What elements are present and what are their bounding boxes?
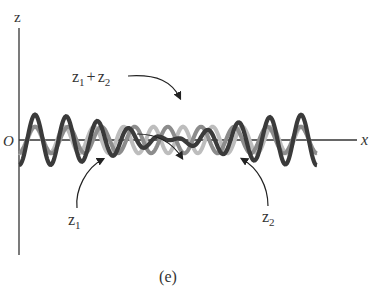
z1-label: z1 xyxy=(68,211,81,231)
figure-caption: (e) xyxy=(159,268,177,286)
z-axis-label: z xyxy=(14,9,21,25)
svg-text:z1+z2: z1+z2 xyxy=(72,68,110,88)
sum-label-arrow xyxy=(128,76,180,98)
z2-label: z2 xyxy=(262,208,275,228)
x-axis-label: x xyxy=(360,131,368,148)
svg-text:z2: z2 xyxy=(262,208,275,228)
z1-arrow xyxy=(77,159,103,208)
sum-label: z1+z2 xyxy=(72,68,110,88)
svg-text:z1: z1 xyxy=(68,211,81,231)
origin-label: O xyxy=(3,133,14,149)
superposition-diagram: z x O z1+z2 z1 z2 (e) xyxy=(0,0,373,287)
z2-arrow xyxy=(242,159,268,206)
